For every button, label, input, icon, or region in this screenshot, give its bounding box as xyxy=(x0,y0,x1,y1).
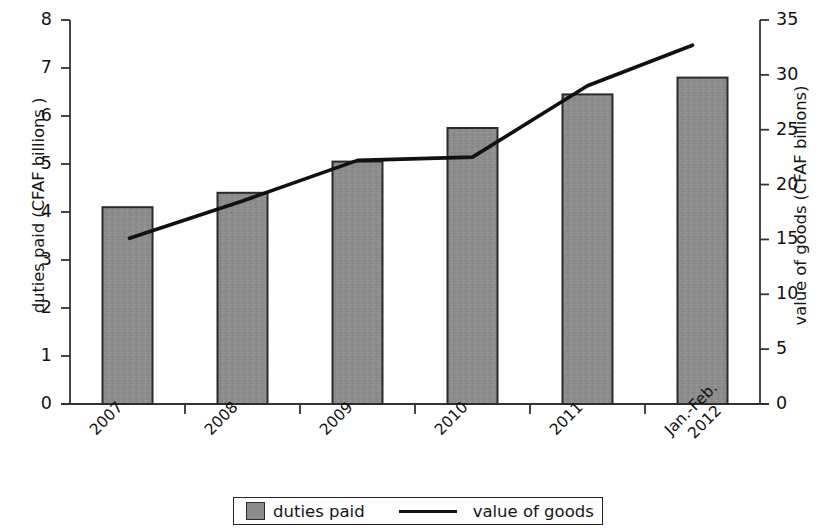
legend-swatch-duties-paid-icon xyxy=(246,502,265,520)
y-axis-left-tick-label: 2 xyxy=(22,299,52,317)
legend-swatch-value-of-goods-icon xyxy=(399,510,457,513)
y-axis-right-tick-label: 30 xyxy=(776,66,816,84)
y-axis-left-tick-label: 7 xyxy=(22,59,52,77)
y-axis-left-tick-label: 5 xyxy=(22,155,52,173)
y-axis-left-tick-label: 6 xyxy=(22,107,52,125)
axis-lines xyxy=(61,20,769,414)
y-axis-right-tick-label: 15 xyxy=(776,230,816,248)
legend-label-duties-paid: duties paid xyxy=(273,502,365,521)
y-axis-left-tick-label: 8 xyxy=(22,11,52,29)
y-axis-right-tick-label: 10 xyxy=(776,285,816,303)
bar xyxy=(218,193,268,404)
y-axis-right-tick-label: 25 xyxy=(776,121,816,139)
y-axis-right-tick-label: 35 xyxy=(776,11,816,29)
y-axis-left-tick-label: 0 xyxy=(22,395,52,413)
y-axis-right-title: value of goods (CFAF billions) xyxy=(791,56,810,356)
y-axis-right-tick-label: 20 xyxy=(776,176,816,194)
bar xyxy=(563,94,613,404)
chart-figure: duties paid (CFAF billions ) value of go… xyxy=(0,0,839,530)
chart-legend: duties paid value of goods xyxy=(233,497,603,525)
y-axis-left-tick-label: 1 xyxy=(22,347,52,365)
y-axis-right-tick-label: 5 xyxy=(776,340,816,358)
plot-area xyxy=(0,0,839,530)
legend-label-value-of-goods: value of goods xyxy=(473,502,594,521)
y-axis-left-tick-label: 4 xyxy=(22,203,52,221)
bar xyxy=(333,162,383,404)
bar xyxy=(678,78,728,404)
bar xyxy=(103,207,153,404)
bar xyxy=(448,128,498,404)
y-axis-right-tick-label: 0 xyxy=(776,395,816,413)
bar-series-duties-paid xyxy=(103,78,728,404)
y-axis-left-tick-label: 3 xyxy=(22,251,52,269)
